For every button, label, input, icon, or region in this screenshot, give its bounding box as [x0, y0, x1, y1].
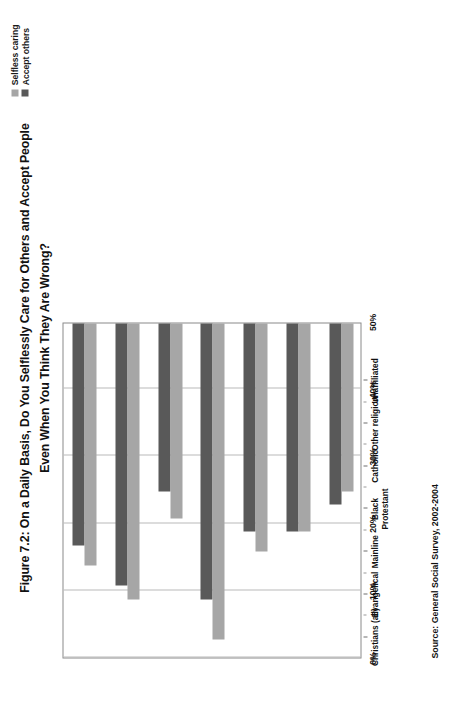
category-boundary-tick: [363, 614, 366, 615]
legend-label: Selfless caring: [10, 24, 19, 85]
category-tick-mark: [363, 508, 367, 509]
bar-group: [63, 323, 106, 657]
category-tick-mark: [363, 636, 367, 637]
legend-item: Accept others: [21, 27, 30, 95]
rotated-figure-wrapper: Figure 7.2: On a Daily Basis, Do You Sel…: [0, 0, 451, 715]
chart-title-line-2: Even When You Think They Are Wrong?: [34, 0, 54, 715]
category-label: Unaffiliated: [370, 358, 380, 403]
legend-swatch-icon: [21, 89, 28, 96]
bar-accept-others: [329, 323, 341, 504]
bar-group: [277, 323, 320, 657]
legend-label: Accept others: [21, 27, 30, 84]
category-tick-mark: [363, 422, 367, 423]
bar-group: [191, 323, 234, 657]
bar-selfless-caring: [212, 323, 224, 639]
category-boundary-tick: [363, 401, 366, 402]
category-boundary-tick: [363, 572, 366, 573]
category-label-line: Evangelical: [369, 571, 379, 617]
category-label-line: Catholic: [369, 449, 379, 482]
bar-selfless-caring: [84, 323, 96, 565]
bar-selfless-caring: [255, 323, 267, 551]
category-label: Other religion: [370, 396, 380, 450]
category-tick-mark: [363, 593, 367, 594]
category-label: BlackProtestant: [370, 488, 389, 529]
bar-group: [148, 323, 191, 657]
legend-swatch-icon: [11, 89, 18, 96]
bar-group: [234, 323, 277, 657]
category-label-line: Protestant: [380, 488, 390, 529]
category-axis-labels: Christians (all)EvangelicalMainlineBlack…: [363, 322, 403, 658]
category-tick-mark: [363, 379, 367, 380]
chart-title: Figure 7.2: On a Daily Basis, Do You Sel…: [14, 0, 55, 715]
category-boundary-tick: [363, 443, 366, 444]
bar-series-container: [63, 323, 360, 657]
category-tick-mark: [363, 465, 367, 466]
bar-selfless-caring: [341, 323, 353, 491]
category-label-line: Other religion: [369, 396, 379, 450]
legend-item: Selfless caring: [10, 24, 19, 96]
bar-accept-others: [243, 323, 255, 531]
bar-accept-others: [72, 323, 84, 545]
bar-accept-others: [115, 323, 127, 585]
category-label: Evangelical: [370, 571, 380, 617]
chart-legend: Selfless caringAccept others: [10, 24, 29, 96]
category-label-line: Unaffiliated: [369, 358, 379, 403]
bar-accept-others: [158, 323, 170, 491]
bar-selfless-caring: [127, 323, 139, 599]
category-boundary-tick: [363, 486, 366, 487]
category-boundary-tick: [363, 529, 366, 530]
category-label: Catholic: [370, 449, 380, 482]
chart-title-line-1: Figure 7.2: On a Daily Basis, Do You Sel…: [17, 123, 31, 592]
category-tick-mark: [363, 550, 367, 551]
bar-selfless-caring: [170, 323, 182, 518]
category-label: Mainline: [370, 535, 380, 568]
category-label-line: Black: [369, 497, 379, 519]
plot-area: [62, 322, 361, 658]
source-note: Source: General Social Survey, 2002-2004: [429, 484, 439, 658]
bar-selfless-caring: [298, 323, 310, 531]
bar-group: [319, 323, 362, 657]
bar-accept-others: [286, 323, 298, 531]
category-label-line: Mainline: [369, 535, 379, 568]
bar-accept-others: [200, 323, 212, 599]
figure-container: Figure 7.2: On a Daily Basis, Do You Sel…: [0, 0, 451, 715]
bar-group: [106, 323, 149, 657]
